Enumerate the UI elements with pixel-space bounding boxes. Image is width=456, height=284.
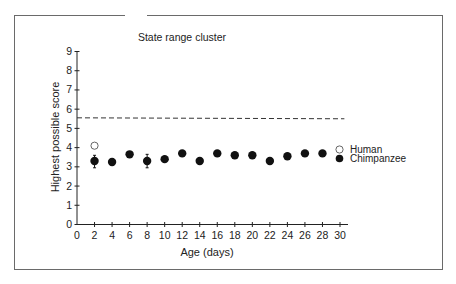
chimpanzee-point [108, 158, 116, 166]
y-tick-label: 5 [66, 122, 72, 134]
chimpanzee-point [178, 149, 186, 157]
chimpanzee-point [231, 151, 239, 159]
x-tick-label: 26 [299, 229, 311, 241]
chimpanzee-point [160, 155, 168, 163]
y-tick-label: 0 [66, 218, 72, 230]
chimpanzee-point [90, 157, 98, 165]
human-point [91, 142, 98, 149]
x-tick-label: 12 [176, 229, 188, 241]
chimpanzee-point [283, 152, 291, 160]
chart: State range cluster 01234567890246810121… [0, 0, 456, 284]
y-tick-label: 3 [66, 160, 72, 172]
x-tick-label: 16 [211, 229, 223, 241]
data-points [90, 142, 326, 168]
chart-title: State range cluster [138, 31, 227, 43]
reference-line [77, 118, 344, 119]
x-tick-label: 10 [159, 229, 171, 241]
legend-open-circle-icon [336, 146, 343, 153]
x-tick-label: 2 [92, 229, 98, 241]
legend: HumanChimpanzee [336, 144, 407, 164]
y-tick-label: 6 [66, 103, 72, 115]
y-tick-label: 7 [66, 83, 72, 95]
chimpanzee-point [125, 150, 133, 158]
x-axis-label: Age (days) [180, 246, 233, 258]
x-tick-label: 20 [246, 229, 258, 241]
chimpanzee-point [196, 157, 204, 165]
x-tick-label: 0 [74, 229, 80, 241]
y-tick-label: 1 [66, 199, 72, 211]
x-tick-label: 24 [282, 229, 294, 241]
x-tick-label: 4 [109, 229, 115, 241]
y-tick-label: 2 [66, 180, 72, 192]
x-tick-label: 8 [144, 229, 150, 241]
x-tick-label: 22 [264, 229, 276, 241]
chimpanzee-point [143, 157, 151, 165]
chimpanzee-point [248, 151, 256, 159]
chimpanzee-point [318, 149, 326, 157]
axes: 0123456789024681012141618202224262830 [66, 45, 348, 241]
x-tick-label: 14 [194, 229, 206, 241]
legend-filled-circle-icon [336, 155, 344, 163]
chimpanzee-point [213, 149, 221, 157]
dashed-line [77, 118, 344, 119]
legend-label: Chimpanzee [350, 153, 407, 164]
chimpanzee-point [266, 157, 274, 165]
y-tick-label: 8 [66, 64, 72, 76]
x-tick-label: 6 [127, 229, 133, 241]
x-tick-label: 28 [317, 229, 329, 241]
y-tick-label: 9 [66, 45, 72, 57]
y-tick-label: 4 [66, 141, 72, 153]
y-axis-label: Highest possible score [49, 82, 61, 193]
x-tick-label: 18 [229, 229, 241, 241]
chimpanzee-point [301, 149, 309, 157]
x-tick-label: 30 [334, 229, 346, 241]
